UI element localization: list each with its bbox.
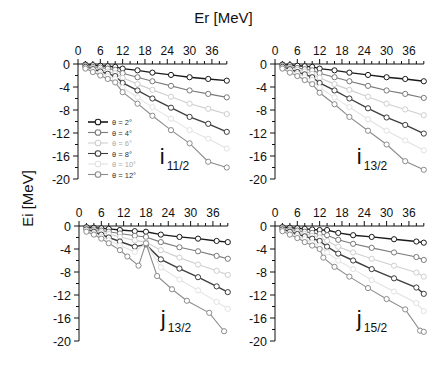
x-tick-label: 18 [335, 44, 349, 58]
data-point [295, 235, 300, 240]
y-tick-label: -12 [249, 127, 267, 141]
data-point [332, 95, 337, 100]
data-point [206, 91, 211, 96]
y-tick-label: 0 [63, 58, 70, 72]
y-tick-label: -16 [249, 150, 267, 164]
data-point [336, 230, 341, 235]
data-point [347, 79, 352, 84]
data-point [421, 309, 426, 314]
data-point [351, 267, 356, 272]
svg-text:θ = 10°: θ = 10° [112, 160, 136, 169]
y-tick-label: -4 [60, 243, 71, 257]
panel-label-subscript: 13/2 [168, 321, 192, 335]
data-point [206, 121, 211, 126]
data-point [414, 270, 419, 275]
x-tick-label: 30 [183, 44, 197, 58]
y-tick-label: -8 [60, 266, 71, 280]
y-tick-label: 0 [260, 220, 267, 234]
data-point [135, 82, 140, 87]
data-point [106, 241, 111, 246]
data-point [287, 70, 292, 75]
data-point [384, 142, 389, 147]
data-point [384, 296, 389, 301]
data-point [177, 234, 182, 239]
data-point [206, 159, 211, 164]
data-point [150, 70, 155, 75]
data-point [155, 273, 160, 278]
data-point [177, 245, 182, 250]
data-point [403, 76, 408, 81]
x-tick-label: 6 [98, 206, 105, 220]
y-tick-label: -12 [53, 289, 71, 303]
y-tick-label: -8 [256, 104, 267, 118]
data-point [158, 232, 163, 237]
y-tick-label: -12 [52, 127, 70, 141]
x-tick-label: 30 [380, 206, 394, 220]
series-line [85, 69, 226, 168]
data-point [91, 232, 96, 237]
data-point [351, 258, 356, 263]
data-point [324, 238, 329, 243]
data-point [158, 248, 163, 253]
data-point [365, 83, 370, 88]
panel-label-subscript: 15/2 [364, 321, 388, 335]
panel-top-left: 0612182430360-4-8-12-16-20i11/2θ = 2°θ =… [52, 44, 229, 187]
data-point [168, 72, 173, 77]
data-point [99, 236, 104, 241]
x-tick-label: 18 [335, 206, 349, 220]
data-point [187, 88, 192, 93]
legend-item: θ = 6° [88, 139, 132, 148]
svg-text:θ = 6°: θ = 6° [112, 139, 132, 148]
plot-area: 0612182430360-4-8-12-16-20i11/2θ = 2°θ =… [0, 0, 447, 365]
svg-text:θ = 8°: θ = 8° [112, 150, 132, 159]
data-point [317, 75, 322, 80]
data-point [336, 244, 341, 249]
x-tick-label: 18 [138, 44, 152, 58]
data-point [324, 227, 329, 232]
data-point [347, 274, 352, 279]
data-point [158, 265, 163, 270]
data-point [310, 243, 315, 248]
data-point [302, 78, 307, 83]
data-point [324, 250, 329, 255]
data-point [224, 165, 229, 170]
data-point [421, 79, 426, 84]
data-point [332, 68, 337, 73]
y-tick-label: -4 [256, 243, 267, 257]
data-point [403, 107, 408, 112]
data-point [184, 298, 189, 303]
data-point [225, 306, 230, 311]
x-tick-label: 6 [97, 44, 104, 58]
data-point [369, 256, 374, 261]
data-point [224, 95, 229, 100]
data-point [117, 248, 122, 253]
data-point [391, 263, 396, 268]
data-point [295, 73, 300, 78]
data-point [336, 251, 341, 256]
data-point [414, 300, 419, 305]
panel-label: i [357, 144, 362, 169]
data-point [206, 106, 211, 111]
data-point [224, 146, 229, 151]
data-point [351, 250, 356, 255]
data-point [347, 70, 352, 75]
data-point [332, 88, 337, 93]
data-point [168, 94, 173, 99]
x-tick-label: 24 [161, 44, 175, 58]
data-point [336, 237, 341, 242]
data-point [224, 129, 229, 134]
data-point [214, 299, 219, 304]
data-point [135, 101, 140, 106]
data-point [150, 105, 155, 110]
data-point [150, 87, 155, 92]
data-point [324, 244, 329, 249]
data-point [195, 236, 200, 241]
data-point [421, 329, 426, 334]
data-point [135, 95, 140, 100]
data-point [391, 237, 396, 242]
data-point [83, 66, 88, 71]
data-point [310, 82, 315, 87]
y-tick-label: -4 [256, 81, 267, 95]
data-point [414, 254, 419, 259]
x-tick-label: 12 [313, 206, 327, 220]
